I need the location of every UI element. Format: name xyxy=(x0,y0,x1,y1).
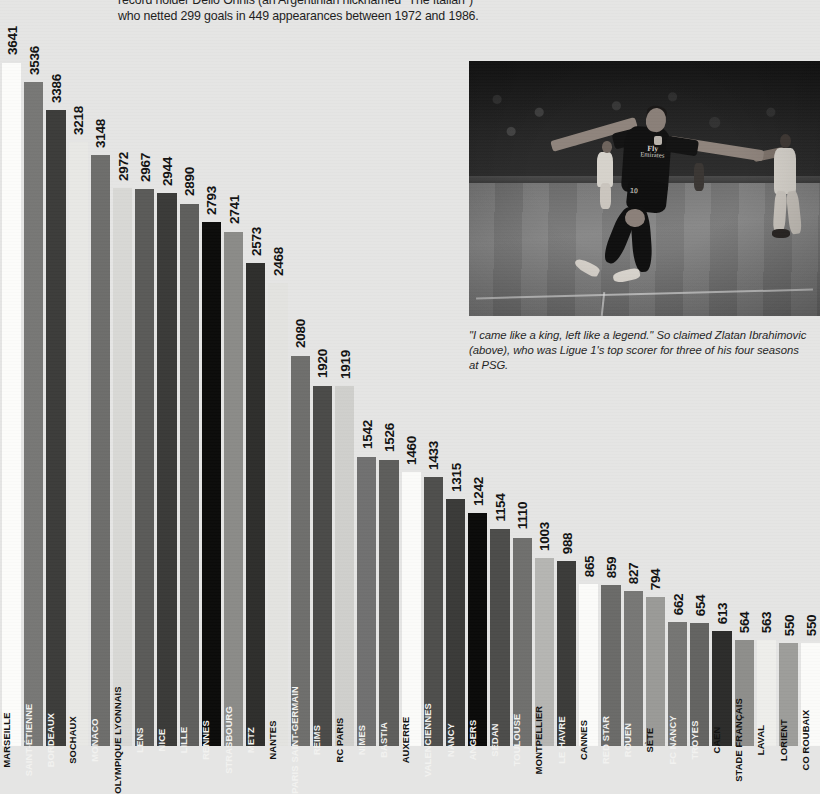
bar-category-label: SOCHAUX xyxy=(68,716,78,764)
bar-category-label: CO ROUBAIX xyxy=(801,710,811,771)
bar-column: 2890LILLE xyxy=(180,0,199,746)
bar-column: 3641MARSEILLE xyxy=(2,0,21,746)
bar-category-label: NICE xyxy=(157,729,167,752)
bar-category-label: RC PARIS xyxy=(335,718,345,763)
intro-paragraph: record holder Delio Onnis (an Argentinia… xyxy=(118,0,538,24)
bar-value-label: 2741 xyxy=(226,195,241,224)
bar-column: 3148MONACO xyxy=(91,0,110,746)
bar-category-label: RED STAR xyxy=(601,716,611,764)
bar-column: 2967LENS xyxy=(135,0,154,746)
bar-value-label: 2967 xyxy=(137,153,152,182)
bar-category-label: BASTIA xyxy=(379,722,389,758)
bar-category-label-wrap: NIMES xyxy=(357,624,376,740)
bar-value-label: 1919 xyxy=(337,350,352,379)
bar-category-label-wrap: VALENCIENNES xyxy=(424,624,443,740)
bar-value-label: 662 xyxy=(670,594,685,616)
bar-category-label: AUXERRE xyxy=(401,717,411,764)
bar-category-label-wrap: LILLE xyxy=(180,624,199,740)
bar-category-label: TOULOUSE xyxy=(512,714,522,767)
bar-category-label: STRASBOURG xyxy=(224,706,234,774)
bar-category-label-wrap: BORDEAUX xyxy=(46,624,65,740)
bar-category-label-wrap: RENNES xyxy=(202,624,221,740)
bar-category-label: RENNES xyxy=(201,720,211,760)
bar-category-label-wrap: PARIS SAINT-GERMAIN xyxy=(291,624,310,740)
bar-category-label: LORIENT xyxy=(779,719,789,761)
bar-value-label: 1433 xyxy=(426,441,441,470)
bar-category-label: NIMES xyxy=(357,725,367,755)
bar-category-label-wrap: AUXERRE xyxy=(402,624,421,740)
bar-category-label: NANTES xyxy=(268,720,278,759)
bar-value-label: 2944 xyxy=(159,157,174,186)
bar-value-label: 654 xyxy=(692,595,707,617)
bar-category-label-wrap: LAVAL xyxy=(757,624,776,740)
bar-category-label-wrap: METZ xyxy=(246,624,265,740)
bar-value-label: 2890 xyxy=(182,167,197,196)
bar-category-label-wrap: NANCY xyxy=(446,624,465,740)
photo-vignette xyxy=(469,61,820,316)
bar-category-label: PARIS SAINT-GERMAIN xyxy=(290,686,300,794)
bar-category-label: LAVAL xyxy=(756,725,766,755)
bar-category-label: FC NANCY xyxy=(668,715,678,764)
bar-category-label: METZ xyxy=(246,727,256,753)
bar-category-label: MONACO xyxy=(90,718,100,761)
bar-category-label-wrap: LORIENT xyxy=(779,624,798,740)
bar-category-label-wrap: RED STAR xyxy=(601,624,620,740)
bar-category-label: SAINT-ÉTIENNE xyxy=(24,704,34,777)
bar-category-label-wrap: STRASBOURG xyxy=(224,624,243,740)
bar-category-label-wrap: NICE xyxy=(157,624,176,740)
bar-value-label: 2972 xyxy=(115,152,130,181)
bar-category-label-wrap: BASTIA xyxy=(379,624,398,740)
bar-value-label: 794 xyxy=(648,569,663,591)
bar-column: 1542NIMES xyxy=(357,0,376,746)
bar-category-label: STADE FRANÇAIS xyxy=(734,698,744,782)
bar-category-label-wrap: MONTPELLIER xyxy=(535,624,554,740)
bar-column: 2741STRASBOURG xyxy=(224,0,243,746)
zlatan-ibrahimovic-celebration-photo: Fly Emirates 10 xyxy=(469,61,820,316)
bar-value-label: 2573 xyxy=(248,227,263,256)
bar-value-label: 859 xyxy=(603,557,618,579)
bar-category-label-wrap: CAEN xyxy=(712,624,731,740)
bar-category-label-wrap: SÈTE xyxy=(646,624,665,740)
bar-category-label-wrap: ROUEN xyxy=(624,624,643,740)
bar-column: 1433VALENCIENNES xyxy=(424,0,443,746)
bar-column: 2080PARIS SAINT-GERMAIN xyxy=(291,0,310,746)
bar-category-label: SEDAN xyxy=(490,723,500,756)
bar-category-label: REIMS xyxy=(312,725,322,755)
bar-value-label: 2793 xyxy=(204,186,219,215)
bar-value-label: 1460 xyxy=(404,436,419,465)
bar-column: 1919RC PARIS xyxy=(335,0,354,746)
bar-value-label: 1154 xyxy=(492,494,507,522)
bar-category-label-wrap: MONACO xyxy=(91,624,110,740)
bar-category-label: MONTPELLIER xyxy=(534,706,544,774)
bar-category-label: CAEN xyxy=(712,727,722,754)
bar-column: 3218SOCHAUX xyxy=(69,0,88,746)
bar-category-label-wrap: CO ROUBAIX xyxy=(801,624,820,740)
bar-value-label: 3641 xyxy=(4,26,19,55)
bar-category-label-wrap: RC PARIS xyxy=(335,624,354,740)
bar-category-label: NANCY xyxy=(446,723,456,757)
bar-value-label: 3148 xyxy=(93,119,108,148)
bar-category-label-wrap: SEDAN xyxy=(490,624,509,740)
bar-value-label: 1315 xyxy=(448,463,463,492)
bar-category-label: MARSEILLE xyxy=(2,712,12,767)
bar-value-label: 865 xyxy=(581,555,596,577)
bar-category-label: SÈTE xyxy=(645,728,655,753)
bar-category-label-wrap: NANTES xyxy=(268,624,287,740)
bar-value-label: 1003 xyxy=(537,522,552,551)
bar-column: 2793RENNES xyxy=(202,0,221,746)
bar-value-label: 1110 xyxy=(515,502,530,529)
photo-block: Fly Emirates 10 xyxy=(469,61,820,316)
bar-category-label-wrap: SAINT-ÉTIENNE xyxy=(24,624,43,740)
bar-category-label: LE HAVRE xyxy=(557,716,567,764)
bar-category-label-wrap: TROYES xyxy=(690,624,709,740)
bar-column: 1315NANCY xyxy=(446,0,465,746)
bar-column: 3386BORDEAUX xyxy=(46,0,65,746)
bar-value-label: 827 xyxy=(626,563,641,585)
bar-category-label-wrap: LENS xyxy=(135,624,154,740)
bar-category-label: OLYMPIQUE LYONNAIS xyxy=(113,686,123,793)
bar-category-label-wrap: FC NANCY xyxy=(668,624,687,740)
bar-column: 1460AUXERRE xyxy=(402,0,421,746)
bar-value-label: 3386 xyxy=(48,74,63,103)
bar-category-label: ROUEN xyxy=(623,723,633,757)
bar-category-label: TROYES xyxy=(690,720,700,759)
